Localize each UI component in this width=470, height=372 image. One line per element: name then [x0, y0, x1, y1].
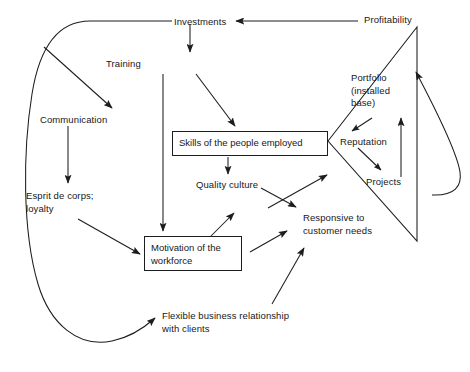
edge-esprit-to-motivation	[78, 219, 140, 254]
node-skills-box[interactable]: Skills of the people employed	[172, 131, 328, 156]
node-responsive-to-customer-needs[interactable]: Responsive to customer needs	[303, 212, 372, 237]
shape-triangle	[328, 27, 417, 241]
edge-quality-to-responsive	[261, 188, 296, 207]
node-skills-label: Skills of the people employed	[179, 136, 303, 149]
node-esprit-de-corps[interactable]: Esprit de corps; loyalty	[26, 190, 94, 215]
node-motivation-box[interactable]: Motivation of the workforce	[144, 236, 242, 271]
node-training[interactable]: Training	[106, 58, 141, 71]
edge-motivation-to-responsive	[250, 231, 287, 252]
node-profitability[interactable]: Profitability	[364, 14, 412, 27]
edge-flexible-to-responsive	[272, 248, 304, 304]
edge-portfolio-to-reputation	[352, 118, 372, 131]
node-flexible-business-relationship[interactable]: Flexible business relationship with clie…	[162, 310, 289, 335]
node-communication[interactable]: Communication	[40, 114, 107, 127]
edge-left-loop-to-communication	[44, 47, 112, 108]
causal-loop-diagram: Investments Profitability Training Commu…	[0, 0, 470, 372]
edge-right-loop-to-profitability	[416, 72, 460, 195]
node-portfolio[interactable]: Portfolio (installed base)	[351, 72, 390, 110]
edge-training-to-skills	[196, 74, 235, 126]
node-motivation-label: Motivation of the workforce	[151, 241, 221, 267]
node-quality-culture[interactable]: Quality culture	[196, 179, 258, 192]
edge-responsive-to-triangle	[268, 175, 327, 208]
node-reputation[interactable]: Reputation	[340, 136, 387, 149]
edge-reputation-to-projects	[358, 148, 381, 170]
node-investments[interactable]: Investments	[174, 16, 226, 29]
node-projects[interactable]: Projects	[366, 176, 401, 189]
